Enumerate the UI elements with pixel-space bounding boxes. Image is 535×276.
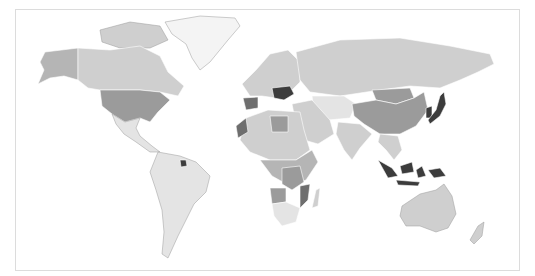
region-indonesia[interactable]	[378, 160, 446, 186]
region-russia[interactable]	[296, 38, 494, 96]
region-southern-africa[interactable]	[272, 202, 300, 226]
region-libya[interactable]	[270, 116, 288, 132]
region-united-states[interactable]	[100, 90, 170, 122]
world-map[interactable]	[0, 0, 535, 276]
region-india[interactable]	[336, 122, 372, 160]
region-angola[interactable]	[270, 188, 286, 204]
region-balkans[interactable]	[272, 86, 294, 100]
region-alaska[interactable]	[38, 48, 78, 84]
region-mozambique[interactable]	[300, 184, 310, 208]
region-new-zealand[interactable]	[470, 222, 484, 244]
region-southeast-asia[interactable]	[378, 134, 402, 160]
region-mexico-central-america[interactable]	[112, 114, 160, 152]
region-canada-islands[interactable]	[100, 22, 168, 48]
region-canada[interactable]	[78, 46, 184, 96]
region-south-america[interactable]	[150, 152, 210, 258]
region-french-guiana[interactable]	[180, 160, 187, 167]
region-greenland[interactable]	[165, 16, 240, 70]
region-australia[interactable]	[400, 184, 456, 232]
region-iberia[interactable]	[243, 97, 258, 110]
region-madagascar[interactable]	[312, 188, 320, 208]
